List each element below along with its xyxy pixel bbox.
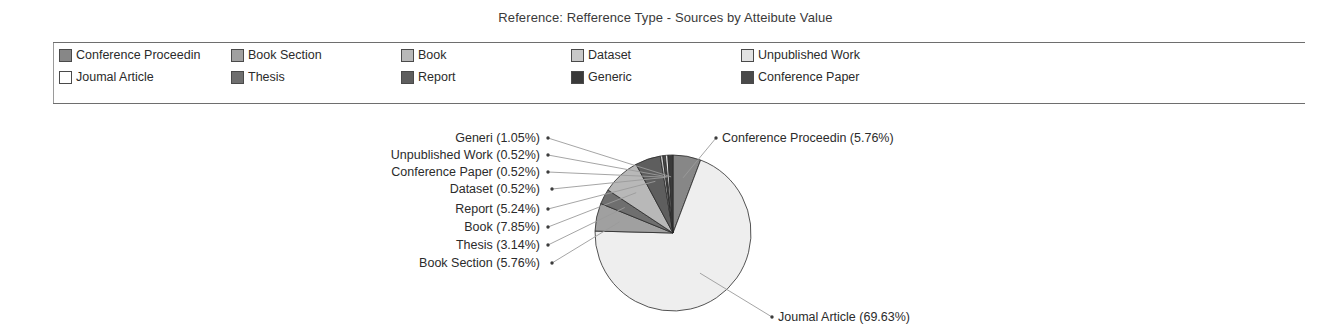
legend-item-label: Conference Proceedin [76, 49, 200, 62]
pie-leader-dot [546, 170, 549, 173]
pie-label-unpublished-work: Unpublished Work (0.52%) [320, 148, 540, 162]
legend-item-label: Book Section [248, 49, 322, 62]
pie-leader-dot [546, 243, 549, 246]
pie-leader-dot [550, 261, 553, 264]
legend-swatch-icon [571, 71, 584, 84]
legend-item-book[interactable]: Book [401, 49, 447, 62]
legend-item-label: Dataset [588, 49, 631, 62]
pie-label-thesis: Thesis (3.14%) [340, 238, 540, 252]
legend-swatch-icon [59, 49, 72, 62]
pie-leader-dot [714, 136, 717, 139]
legend-swatch-icon [401, 71, 414, 84]
pie-label-report: Report (5.24%) [340, 202, 540, 216]
legend-swatch-icon [741, 49, 754, 62]
pie-leader-dot [546, 225, 549, 228]
pie-slices-group [595, 155, 751, 311]
legend-swatch-icon [59, 71, 72, 84]
legend-swatch-icon [401, 49, 414, 62]
legend-item-joumal-article[interactable]: Joumal Article [59, 71, 154, 84]
legend-item-generic[interactable]: Generic [571, 71, 632, 84]
pie-label-joumal-article: Joumal Article (69.63%) [778, 310, 910, 324]
pie-leader-dot [770, 315, 773, 318]
legend-item-label: Joumal Article [76, 71, 154, 84]
page-title: Reference: Refference Type - Sources by … [0, 10, 1331, 25]
pie-label-dataset: Dataset (0.52%) [340, 182, 540, 196]
legend-item-label: Generic [588, 71, 632, 84]
legend-item-book-section[interactable]: Book Section [231, 49, 322, 62]
legend-item-label: Conference Paper [758, 71, 859, 84]
pie-leader-dot [546, 153, 549, 156]
legend-item-label: Thesis [248, 71, 285, 84]
legend-panel: Conference Proceedin Joumal Article Book… [53, 42, 1305, 104]
legend-item-unpublished-work[interactable]: Unpublished Work [741, 49, 860, 62]
legend-item-report[interactable]: Report [401, 71, 456, 84]
pie-label-conference-proceedin: Conference Proceedin (5.76%) [722, 131, 894, 145]
pie-label-book: Book (7.85%) [340, 220, 540, 234]
pie-leader-dot [546, 136, 549, 139]
legend-swatch-icon [231, 49, 244, 62]
pie-label-generi: Generi (1.05%) [380, 131, 540, 145]
legend-swatch-icon [231, 71, 244, 84]
pie-chart-area: Generi (1.05%) Unpublished Work (0.52%) … [0, 110, 1331, 335]
legend-item-thesis[interactable]: Thesis [231, 71, 285, 84]
legend-swatch-icon [741, 71, 754, 84]
pie-chart-svg [0, 110, 1331, 335]
pie-leader-dot [546, 207, 549, 210]
legend-item-label: Book [418, 49, 447, 62]
pie-leader-dot [550, 187, 553, 190]
legend-item-label: Unpublished Work [758, 49, 860, 62]
legend-item-conference-paper[interactable]: Conference Paper [741, 71, 859, 84]
pie-label-conference-paper: Conference Paper (0.52%) [300, 165, 540, 179]
legend-item-label: Report [418, 71, 456, 84]
legend-item-dataset[interactable]: Dataset [571, 49, 631, 62]
pie-label-book-section: Book Section (5.76%) [300, 256, 540, 270]
legend-item-conference-proceedin[interactable]: Conference Proceedin [59, 49, 200, 62]
legend-swatch-icon [571, 49, 584, 62]
